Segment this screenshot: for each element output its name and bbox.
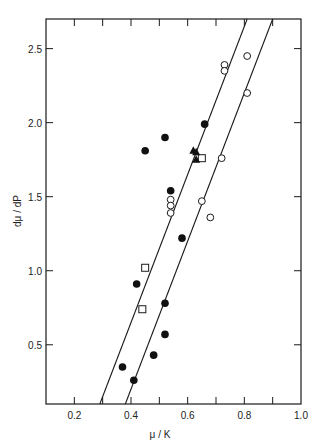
filled-circle-marker (167, 187, 175, 195)
x-tick-label: 0.8 (237, 410, 251, 421)
open-circle-marker (221, 67, 228, 74)
data-points (119, 53, 251, 384)
filled-circle-marker (133, 280, 141, 288)
x-tick-label: 0.2 (67, 410, 81, 421)
y-tick-label: 0.5 (28, 340, 42, 351)
axis-tick-labels: 0.20.40.60.81.00.51.01.52.02.5 (28, 44, 308, 421)
open-circle-marker (167, 202, 174, 209)
filled-circle-marker (201, 120, 209, 128)
fit-line (125, 19, 272, 404)
open-circle-marker (244, 90, 251, 97)
filled-circle-marker (161, 331, 169, 339)
scatter-chart: 0.20.40.60.81.00.51.01.52.02.5 μ / K dμ … (0, 0, 320, 446)
open-square-marker (139, 306, 146, 313)
filled-circle-marker (150, 351, 158, 359)
filled-circle-marker (161, 300, 169, 308)
x-tick-label: 0.4 (124, 410, 138, 421)
filled-circle-marker (119, 363, 127, 371)
y-axis-label: dμ / dP (12, 195, 23, 227)
open-square-marker (142, 264, 149, 271)
y-tick-label: 1.0 (28, 266, 42, 277)
open-circle-marker (207, 214, 214, 221)
filled-circle-marker (161, 134, 169, 142)
filled-circle-marker (130, 377, 138, 385)
x-tick-label: 0.6 (181, 410, 195, 421)
x-axis-label: μ / K (150, 429, 171, 440)
open-square-marker (198, 155, 205, 162)
open-circle-marker (167, 210, 174, 217)
open-circle-marker (244, 53, 251, 60)
y-tick-label: 2.0 (28, 118, 42, 129)
y-tick-label: 2.5 (28, 44, 42, 55)
filled-circle-marker (141, 147, 149, 155)
x-tick-label: 1.0 (294, 410, 308, 421)
open-circle-marker (198, 198, 205, 205)
y-tick-label: 1.5 (28, 192, 42, 203)
open-circle-marker (218, 155, 225, 162)
fit-lines (100, 19, 273, 404)
filled-circle-marker (178, 234, 186, 242)
